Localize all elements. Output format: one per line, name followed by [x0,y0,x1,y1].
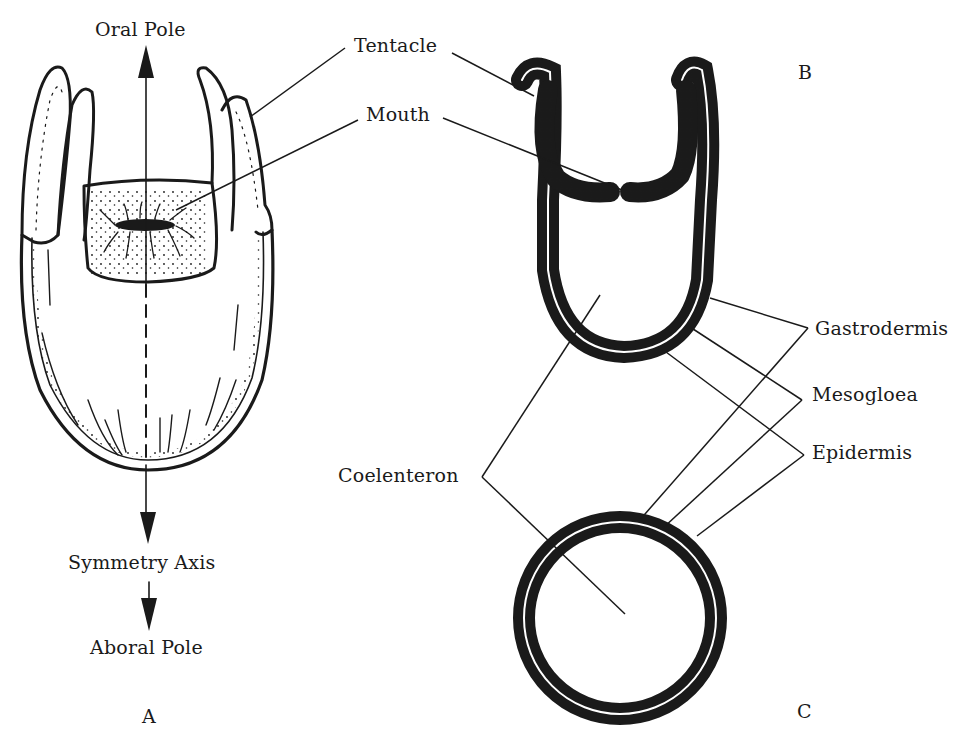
diagram-svg [0,0,971,729]
left-tentacle-inner [58,89,94,240]
tentacle-label: Tentacle [354,36,437,55]
longitudinal-section [522,68,708,352]
aboral-pole-label: Aboral Pole [90,638,203,657]
cross-section-ring [524,522,716,714]
mouth-opening [115,219,175,231]
gastrodermis-label: Gastrodermis [815,319,948,338]
mouth-label: Mouth [366,105,430,124]
mesogloea-label: Mesogloea [812,385,918,404]
figure-canvas: Oral Pole Tentacle Mouth B Gastrodermis … [0,0,971,729]
oral-arrowhead-icon [138,45,154,78]
panel-label-c: C [797,702,812,721]
panel-label-b: B [798,63,812,82]
symmetry-axis-label: Symmetry Axis [68,553,215,572]
epidermis-label: Epidermis [812,443,912,462]
symmetry-arrowhead-icon [140,512,156,544]
oral-pole-label: Oral Pole [95,20,186,39]
aboral-arrowhead-icon [141,598,157,631]
coelenteron-label: Coelenteron [338,466,459,485]
panel-label-a: A [142,707,156,726]
left-tentacle-outer [22,67,70,243]
